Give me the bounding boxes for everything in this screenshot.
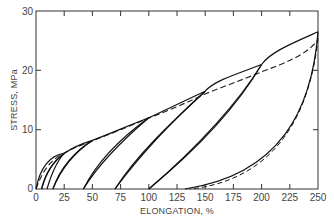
x-tick-labels: 0 25 50 75 100 125 150 175 200 225 250 bbox=[33, 192, 327, 203]
svg-text:150: 150 bbox=[197, 192, 214, 203]
plot-frame bbox=[36, 11, 318, 189]
svg-text:175: 175 bbox=[225, 192, 242, 203]
cycle-150 bbox=[115, 91, 205, 189]
svg-text:0: 0 bbox=[27, 183, 33, 194]
cycle-100 bbox=[83, 118, 148, 189]
svg-text:225: 225 bbox=[281, 192, 298, 203]
svg-text:100: 100 bbox=[140, 192, 157, 203]
svg-text:30: 30 bbox=[22, 6, 34, 17]
svg-text:250: 250 bbox=[310, 192, 327, 203]
svg-text:75: 75 bbox=[115, 192, 127, 203]
svg-text:200: 200 bbox=[253, 192, 270, 203]
svg-text:10: 10 bbox=[22, 124, 34, 135]
svg-text:20: 20 bbox=[22, 65, 34, 76]
y-tick-labels: 0 10 20 30 bbox=[22, 6, 34, 194]
y-ticks bbox=[36, 70, 318, 129]
svg-text:0: 0 bbox=[33, 192, 39, 203]
cycle-250 bbox=[185, 32, 318, 189]
svg-text:25: 25 bbox=[59, 192, 71, 203]
envelope-dashed-line bbox=[36, 40, 318, 189]
y-axis-title: STRESS, MPa bbox=[9, 69, 19, 131]
stress-elongation-chart: 0 25 50 75 100 125 150 175 200 225 250 0… bbox=[0, 0, 334, 224]
x-axis-title: ELONGATION, % bbox=[140, 206, 214, 216]
svg-text:50: 50 bbox=[87, 192, 99, 203]
cycle-50 bbox=[47, 140, 92, 189]
svg-text:125: 125 bbox=[169, 192, 186, 203]
